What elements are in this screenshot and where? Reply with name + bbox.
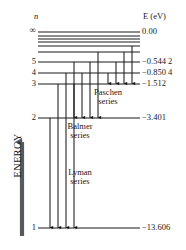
energy-value-n3: −1.512 (142, 79, 166, 88)
series-name-line2: series (82, 97, 134, 106)
energy-value-n2: −3.401 (142, 113, 166, 122)
energy-value-n4: −0.850 4 (142, 68, 172, 77)
energy-value-n5: −0.544 2 (142, 57, 172, 66)
level-number-4: 4 (20, 68, 36, 77)
n-column-header: n (34, 12, 38, 21)
series-label-paschen: Paschenseries (82, 88, 134, 106)
level-number-2: 2 (20, 113, 36, 122)
energy-value-n1: −13.606 (142, 223, 170, 232)
energy-level-diagram: n E (eV) ∞54321 0.00−0.544 2−0.850 4−1.5… (0, 0, 186, 250)
level-number-infinity: ∞ (20, 26, 36, 35)
series-label-lyman: Lymanseries (54, 168, 106, 186)
level-number-1: 1 (20, 223, 36, 232)
series-name-line2: series (54, 131, 106, 140)
energy-column-header: E (eV) (143, 12, 166, 21)
series-name-line2: series (54, 177, 106, 186)
level-number-5: 5 (20, 57, 36, 66)
level-number-3: 3 (20, 79, 36, 88)
energy-axis-label: ENERGY (12, 125, 23, 187)
series-label-balmer: Balmerseries (54, 122, 106, 140)
energy-value-ninf: 0.00 (142, 27, 157, 36)
